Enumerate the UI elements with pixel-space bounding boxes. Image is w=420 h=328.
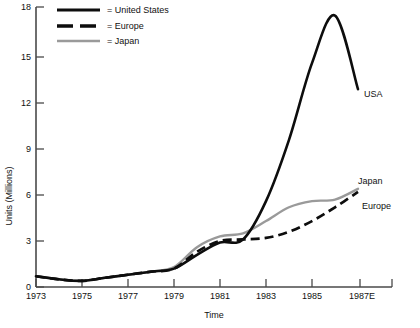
series-line-japan <box>36 189 358 281</box>
x-tick-label: 1973 <box>26 291 46 301</box>
chart-container: 18 15 12 9 6 3 0 Units (Millions) 1973 1… <box>0 0 420 328</box>
legend-label-europe: = Europe <box>107 21 144 31</box>
x-tick-label: 1981 <box>210 291 230 301</box>
y-tick-label: 18 <box>21 2 31 12</box>
y-axis-ticks <box>36 7 44 287</box>
x-axis-tick-labels: 1973 1975 1977 1979 1981 1983 1985 1987E <box>26 291 375 301</box>
x-tick-label: 1983 <box>256 291 276 301</box>
y-axis-tick-labels: 18 15 12 9 6 3 0 <box>21 2 31 292</box>
series-line-europe <box>36 192 358 281</box>
annotation-europe: Europe <box>362 201 391 211</box>
x-tick-label: 1979 <box>164 291 184 301</box>
y-axis-title: Units (Millions) <box>4 166 14 225</box>
y-tick-label: 9 <box>26 144 31 154</box>
annotation-usa: USA <box>364 89 383 99</box>
x-tick-label: 1975 <box>72 291 92 301</box>
x-axis-title: Time <box>204 310 224 320</box>
legend-label-japan: = Japan <box>107 36 139 46</box>
y-tick-label: 12 <box>21 98 31 108</box>
annotation-japan: Japan <box>358 176 383 186</box>
y-tick-label: 3 <box>26 236 31 246</box>
chart-legend: = United States = Europe = Japan <box>57 5 169 46</box>
y-tick-label: 15 <box>21 52 31 62</box>
x-tick-label: 1977 <box>118 291 138 301</box>
legend-label-united-states: = United States <box>107 5 169 15</box>
series-line-united-states <box>36 15 358 281</box>
y-tick-label: 6 <box>26 190 31 200</box>
x-tick-label: 1985 <box>302 291 322 301</box>
x-tick-label: 1987E <box>349 291 375 301</box>
line-chart: 18 15 12 9 6 3 0 Units (Millions) 1973 1… <box>0 0 420 328</box>
